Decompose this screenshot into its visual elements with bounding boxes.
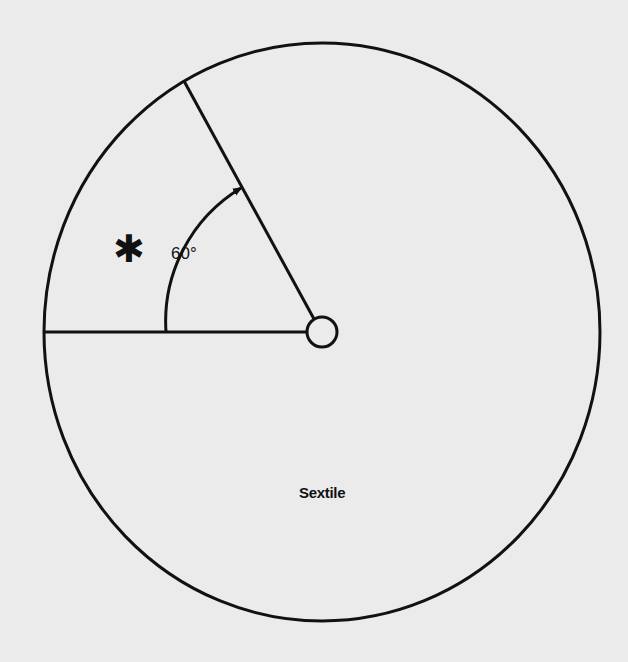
sextile-diagram: ✱ 60° Sextile xyxy=(0,0,628,662)
diagram-graphics xyxy=(0,0,628,662)
angled-ray xyxy=(184,81,314,319)
angle-label: 60° xyxy=(171,244,197,264)
center-circle xyxy=(307,317,337,347)
star-icon: ✱ xyxy=(113,230,145,268)
aspect-title: Sextile xyxy=(299,484,345,501)
